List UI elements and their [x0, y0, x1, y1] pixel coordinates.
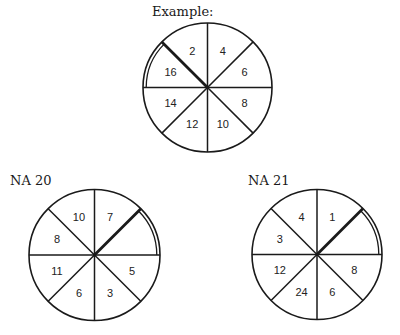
- na21-divider: [271, 209, 317, 255]
- na20-sector-number: 7: [107, 211, 113, 223]
- na21-sector-number: 3: [277, 233, 283, 245]
- na21-sector-number: 8: [351, 264, 357, 276]
- na20-center-dot: [93, 253, 96, 256]
- example-center-dot: [206, 86, 209, 89]
- example-sector-number: 14: [164, 97, 176, 109]
- example-sector-number: 4: [220, 45, 226, 57]
- na20-sector-number: 11: [51, 265, 62, 277]
- na21-sector-number: 12: [274, 264, 286, 276]
- na20-divider: [48, 209, 94, 255]
- na20-sector-number: 8: [54, 233, 60, 245]
- na21-sector-number: 24: [295, 286, 307, 298]
- na21-center-dot: [315, 253, 318, 256]
- example-sector-number: 10: [217, 118, 229, 130]
- na21-sector-number: 4: [299, 211, 305, 223]
- pie-puzzles-canvas: 468101214162753611810186241234: [0, 0, 400, 335]
- example-sector-number: 8: [241, 97, 247, 109]
- na21-divider: [271, 255, 317, 301]
- example-sector-number: 16: [164, 66, 176, 78]
- example-divider: [208, 42, 254, 88]
- na20-divider: [48, 255, 94, 301]
- example-clock-hand: [162, 42, 208, 88]
- na20-clock-hand: [95, 209, 141, 255]
- na20-divider: [95, 255, 141, 301]
- na20-sector-number: 5: [129, 265, 135, 277]
- na21-sector-number: 6: [329, 286, 335, 298]
- example-sector-number: 12: [186, 118, 198, 130]
- example-sector-number: 2: [189, 45, 195, 57]
- example-divider: [208, 88, 254, 134]
- example-divider: [162, 88, 208, 134]
- na21-divider: [317, 255, 363, 301]
- example-sector-number: 6: [241, 66, 247, 78]
- na20-sector-number: 6: [76, 287, 82, 299]
- na21-clock-hand: [317, 209, 363, 255]
- na21-sector-number: 1: [329, 211, 335, 223]
- na20-sector-number: 3: [107, 287, 113, 299]
- na20-sector-number: 10: [73, 211, 85, 223]
